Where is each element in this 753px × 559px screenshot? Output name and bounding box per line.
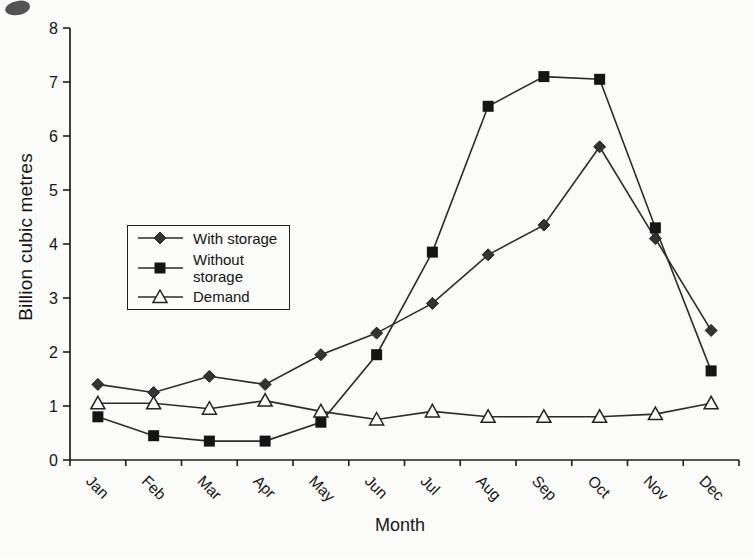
legend-marker <box>155 262 166 273</box>
y-tick-label: 6 <box>49 128 58 145</box>
marker-without-storage-nov <box>650 222 661 233</box>
y-axis-title: Billion cubic metres <box>13 127 39 347</box>
legend-item-demand: Demand <box>137 288 289 305</box>
marker-with-storage-apr <box>259 378 271 390</box>
y-tick-label: 1 <box>49 398 58 415</box>
marker-without-storage-apr <box>260 436 271 447</box>
x-tick-label: Oct <box>585 472 615 502</box>
x-tick-label: May <box>306 472 339 505</box>
x-tick-label: Jul <box>417 472 443 498</box>
marker-with-storage-sep <box>538 219 550 231</box>
x-tick-label: Mar <box>194 472 225 503</box>
marker-demand-apr <box>258 394 272 407</box>
y-tick-label: 2 <box>49 344 58 361</box>
legend-label-with-storage: With storage <box>193 230 277 247</box>
legend-item-with-storage: With storage <box>137 230 289 247</box>
x-tick-label: Sep <box>529 472 561 504</box>
diamond-marker-icon <box>137 230 185 246</box>
legend: With storage Without storage Demand <box>127 225 290 310</box>
y-tick-label: 8 <box>49 20 58 37</box>
x-axis-title: Month <box>330 515 470 536</box>
marker-without-storage-may <box>315 417 326 428</box>
y-tick-label: 3 <box>49 290 58 307</box>
marker-without-storage-oct <box>594 74 605 85</box>
triangle-marker-icon <box>137 289 185 305</box>
marker-with-storage-jan <box>92 378 104 390</box>
square-marker-icon <box>137 260 185 276</box>
marker-with-storage-oct <box>594 141 606 153</box>
legend-label-without-storage: Without storage <box>193 251 289 285</box>
marker-without-storage-mar <box>204 436 215 447</box>
x-tick-label: Jan <box>83 472 113 502</box>
y-tick-label: 4 <box>49 236 58 253</box>
marker-without-storage-jul <box>427 247 438 258</box>
scanned-chart-page: 012345678JanFebMarAprMayJunJulAugSepOctN… <box>0 0 753 559</box>
marker-without-storage-dec <box>706 365 717 376</box>
legend-item-without-storage: Without storage <box>137 251 289 285</box>
x-tick-label: Apr <box>250 472 279 501</box>
marker-without-storage-jan <box>92 411 103 422</box>
x-tick-label: Feb <box>139 472 170 503</box>
y-tick-label: 7 <box>49 74 58 91</box>
x-tick-label: Jun <box>362 472 392 502</box>
x-tick-label: Aug <box>473 472 505 504</box>
y-tick-label: 5 <box>49 182 58 199</box>
x-tick-label: Nov <box>640 472 672 504</box>
marker-without-storage-aug <box>483 101 494 112</box>
legend-label-demand: Demand <box>193 288 250 305</box>
marker-without-storage-sep <box>538 71 549 82</box>
marker-demand-jul <box>425 404 439 417</box>
x-tick-label: Dec <box>696 472 728 504</box>
legend-marker <box>154 232 166 244</box>
marker-with-storage-may <box>315 349 327 361</box>
series-line-demand <box>98 401 711 420</box>
marker-with-storage-mar <box>203 370 215 382</box>
marker-without-storage-feb <box>148 430 159 441</box>
y-tick-label: 0 <box>49 452 58 469</box>
marker-demand-dec <box>704 396 718 409</box>
line-chart: 012345678JanFebMarAprMayJunJulAugSepOctN… <box>0 0 753 559</box>
marker-with-storage-jun <box>371 327 383 339</box>
marker-with-storage-dec <box>705 324 717 336</box>
marker-without-storage-jun <box>371 349 382 360</box>
